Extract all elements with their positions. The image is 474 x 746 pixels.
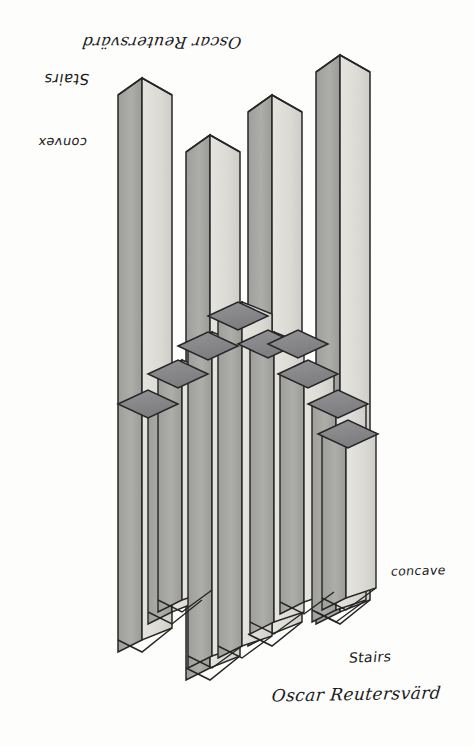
label-concave: concave [390,562,447,578]
impossible-stairs-illustration [0,0,474,746]
signature-bottom: Oscar Reutersvärd [271,683,442,706]
signature-top: Oscar Reutersvärd [81,33,243,52]
inner-shaft-h [322,422,376,610]
label-stairs-top: Stairs [43,70,91,88]
drawing-sheet: Stairs convex Oscar Reutersvärd concave … [0,0,474,746]
label-convex-top: convex [37,135,88,150]
label-stairs-bottom: Stairs [348,648,392,665]
